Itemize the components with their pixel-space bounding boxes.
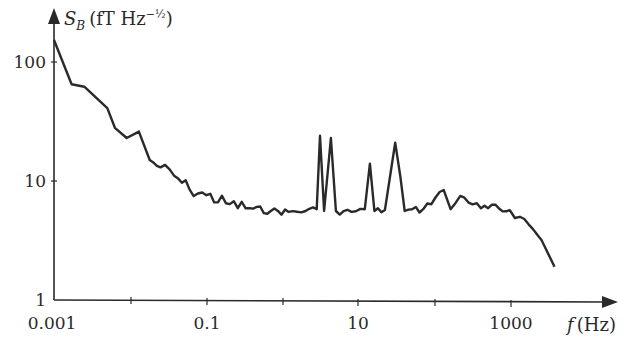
noise-spectrum-line [54,40,555,267]
y-axis-title: SB(fT Hz−½) [64,8,173,33]
x-axis-arrow-icon [602,296,618,308]
y-tick-label-100: 100 [14,52,46,72]
y-tick-label-1: 1 [35,290,46,310]
x-tick-label-10: 10 [347,313,369,333]
x-axis-title: f(Hz) [565,314,616,335]
x-axis: 0.001 0.1 10 1000 f(Hz) [28,296,618,335]
x-tick-label-0.1: 0.1 [193,313,220,333]
y-axis-arrow-icon [48,8,60,24]
spectral-density-chart: 100 10 1 SB(fT Hz−½) 0.001 0.1 10 1000 f… [0,0,640,356]
x-tick-label-0.001: 0.001 [28,313,77,333]
x-tick-label-1000: 1000 [489,313,532,333]
y-tick-label-10: 10 [24,171,46,191]
